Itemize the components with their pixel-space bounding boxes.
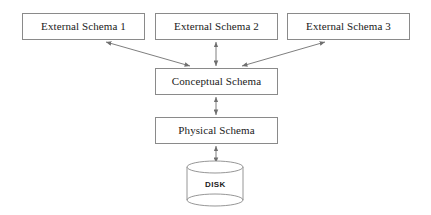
box-external-schema-3[interactable]: External Schema 3 bbox=[287, 13, 410, 40]
box-conceptual-schema[interactable]: Conceptual Schema bbox=[155, 68, 278, 95]
box-label-external-schema-2: External Schema 2 bbox=[174, 21, 259, 32]
box-label-external-schema-1: External Schema 1 bbox=[41, 21, 126, 32]
box-physical-schema[interactable]: Physical Schema bbox=[155, 117, 278, 144]
connector-conceptual-to-external-3 bbox=[242, 42, 325, 66]
diagram-canvas: External Schema 1 External Schema 2 Exte… bbox=[0, 0, 431, 215]
connector-conceptual-to-external-1 bbox=[106, 42, 190, 66]
disk-label: DISK bbox=[205, 180, 226, 189]
box-external-schema-2[interactable]: External Schema 2 bbox=[155, 13, 278, 40]
box-external-schema-1[interactable]: External Schema 1 bbox=[22, 13, 145, 40]
box-label-conceptual-schema: Conceptual Schema bbox=[172, 76, 261, 87]
box-label-physical-schema: Physical Schema bbox=[178, 125, 254, 136]
box-label-external-schema-3: External Schema 3 bbox=[306, 21, 391, 32]
